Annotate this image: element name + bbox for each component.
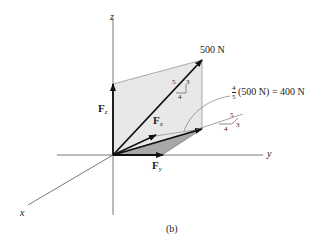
force-magnitude-label: 500 N [200, 45, 225, 55]
x-axis [28, 155, 113, 205]
slope-hyp-label: 5 [172, 79, 176, 86]
fx-label: Fx [153, 115, 163, 128]
figure-caption: (b) [166, 224, 178, 234]
projection-label: 45 (500 N) = 400 N [232, 84, 305, 101]
x-axis-label: x [20, 208, 24, 218]
z-axis-label: z [110, 12, 114, 22]
slope2-run-label: 4 [224, 126, 228, 133]
force-diagram [0, 0, 329, 240]
fy-label: Fy [152, 160, 162, 173]
y-axis-label: y [267, 149, 271, 159]
slope-run-label: 4 [178, 94, 182, 101]
slope-rise-label: 3 [186, 79, 190, 86]
slope2-rise-label: 3 [236, 122, 240, 129]
fz-label: Fz [98, 103, 107, 116]
slope2-hyp-label: 5 [230, 112, 234, 119]
